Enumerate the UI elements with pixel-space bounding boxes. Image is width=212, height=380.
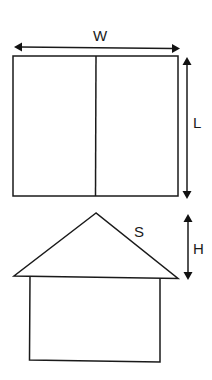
arrowhead-left-icon: [14, 43, 22, 52]
center-divider-line: [96, 56, 97, 196]
front-view: S H: [14, 213, 204, 362]
height-dimension-arrow: [184, 214, 193, 280]
slant-label: S: [134, 223, 144, 240]
top-view: W L: [13, 27, 201, 199]
height-label: H: [193, 240, 204, 257]
arrowhead-up-icon: [183, 57, 192, 65]
house-body: [30, 277, 161, 363]
length-label: L: [193, 114, 201, 131]
arrowhead-down-icon: [184, 272, 193, 280]
width-dimension-arrow: [14, 43, 180, 54]
roof-triangle: [14, 213, 178, 279]
arrowhead-down-icon: [183, 191, 192, 199]
arrowhead-right-icon: [172, 44, 180, 53]
arrowhead-up-icon: [184, 214, 193, 222]
width-label: W: [93, 27, 108, 44]
length-dimension-arrow: [183, 57, 192, 199]
diagram-canvas: W L S H: [0, 0, 212, 380]
